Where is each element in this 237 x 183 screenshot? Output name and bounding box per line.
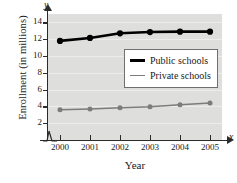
x-tick-mark xyxy=(90,135,91,141)
legend-label-public: Public schools xyxy=(150,55,208,66)
y-tick-label: 4 xyxy=(26,101,42,110)
y-tick-mark xyxy=(43,39,48,40)
x-tick-mark xyxy=(60,135,61,141)
y-tick-mark xyxy=(43,90,48,91)
y-tick-label: 8 xyxy=(26,68,42,77)
y-tick-mark xyxy=(43,73,48,74)
x-tick-label: 2002 xyxy=(103,143,137,152)
y-tick-mark xyxy=(43,123,48,124)
legend-label-private: Private schools xyxy=(150,70,211,81)
x-tick-label: 2003 xyxy=(133,143,167,152)
legend-swatch-private-icon xyxy=(130,75,145,77)
y-tick-mark xyxy=(43,22,48,23)
gridline xyxy=(48,22,222,23)
y-tick-label: 14 xyxy=(26,17,42,26)
x-tick-mark xyxy=(210,135,211,141)
x-tick-label: 2005 xyxy=(193,143,227,152)
gridline xyxy=(48,123,222,124)
y-tick-mark xyxy=(43,56,48,57)
enrollment-line-chart: Enrollment (in millions) y x 2468101214 … xyxy=(0,0,237,183)
y-tick-label: 6 xyxy=(26,85,42,94)
x-tick-mark xyxy=(180,135,181,141)
x-axis-title: Year xyxy=(48,159,222,171)
gridline xyxy=(48,39,222,40)
y-tick-label: 12 xyxy=(26,34,42,43)
gridline xyxy=(48,90,222,91)
legend-item-public: Public schools xyxy=(130,53,211,68)
gridline xyxy=(48,106,222,107)
x-axis-line xyxy=(40,140,228,141)
y-axis-arrow-icon xyxy=(44,4,52,11)
y-tick-label: 10 xyxy=(26,51,42,60)
x-tick-label: 2001 xyxy=(73,143,107,152)
legend-swatch-public-icon xyxy=(130,59,145,62)
chart-legend: Public schools Private schools xyxy=(124,49,218,88)
x-tick-label: 2000 xyxy=(43,143,77,152)
legend-item-private: Private schools xyxy=(130,68,211,83)
x-tick-label: 2004 xyxy=(163,143,197,152)
x-tick-mark xyxy=(150,135,151,141)
y-axis-line xyxy=(47,9,48,140)
x-axis-arrow-icon xyxy=(227,136,234,144)
y-tick-label: 2 xyxy=(26,118,42,127)
x-tick-mark xyxy=(120,135,121,141)
y-tick-mark xyxy=(43,106,48,107)
axis-break-icon xyxy=(42,128,58,142)
